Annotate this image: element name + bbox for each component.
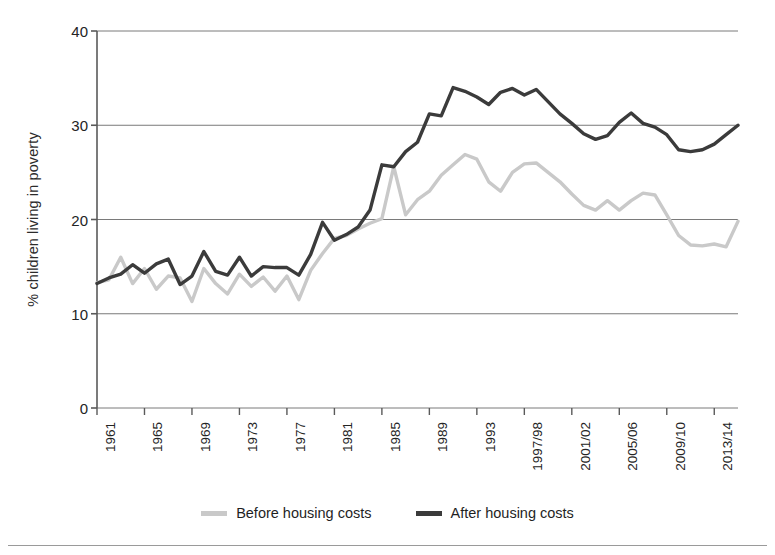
legend-item[interactable]: After housing costs — [416, 505, 574, 521]
footer-divider — [8, 545, 767, 546]
plot-area — [0, 0, 775, 555]
series-line-after-housing-costs — [97, 88, 738, 285]
chart-figure: % children living in poverty 010203040 1… — [0, 0, 775, 555]
legend-label: After housing costs — [451, 505, 574, 521]
series-line-before-housing-costs — [97, 154, 738, 301]
chart-legend: Before housing costsAfter housing costs — [0, 505, 775, 521]
legend-label: Before housing costs — [236, 505, 371, 521]
legend-swatch-icon — [416, 511, 442, 516]
legend-item[interactable]: Before housing costs — [201, 505, 371, 521]
legend-swatch-icon — [201, 511, 227, 516]
